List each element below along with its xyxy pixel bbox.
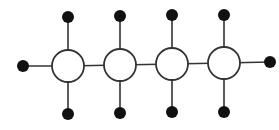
black-node [218, 9, 230, 21]
black-node [62, 108, 74, 120]
chain-diagram [0, 0, 279, 130]
open-circle-node [208, 47, 240, 79]
open-circle-node [104, 49, 136, 81]
open-circle-node [156, 48, 188, 80]
black-node [166, 106, 178, 118]
black-node [264, 56, 276, 68]
open-circle-node [52, 50, 84, 82]
black-node [166, 9, 178, 21]
black-node [114, 107, 126, 119]
black-node [17, 60, 29, 72]
black-node [114, 10, 126, 22]
black-node [218, 106, 230, 118]
black-node [62, 11, 74, 23]
